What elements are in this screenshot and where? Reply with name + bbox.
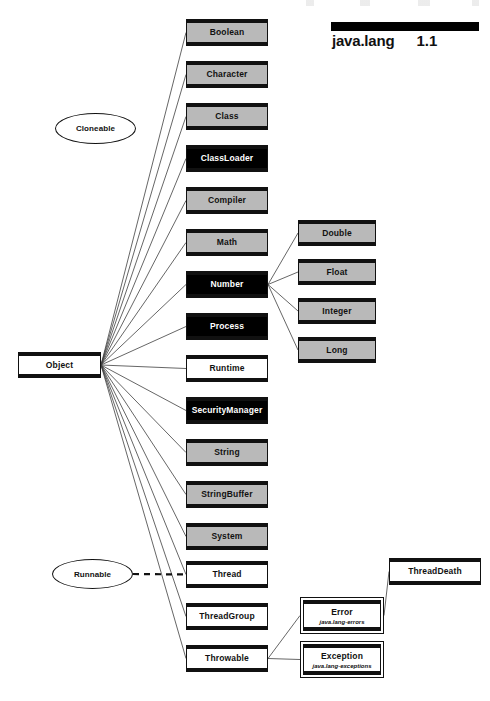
node-title: Process (210, 322, 244, 331)
edge-number-to-long (268, 285, 298, 351)
package-name: java.lang (332, 33, 394, 48)
implements-edge-runnable-to-thread (133, 574, 186, 575)
edge-object-to-boolean (101, 33, 186, 366)
node-title: System (211, 532, 242, 541)
edge-object-to-thread (101, 365, 186, 575)
scan-artifact (300, 0, 490, 6)
edge-object-to-compiler (101, 201, 186, 366)
node-title: ClassLoader (201, 154, 254, 163)
edge-object-to-system (101, 365, 186, 537)
node-title: Math (217, 238, 237, 247)
node-subtitle: java.lang-errors (319, 619, 364, 625)
throwable-inheritance-edges (268, 616, 300, 660)
package-header-bar (331, 22, 479, 31)
edge-object-to-stringbuffer (101, 365, 186, 495)
class-box-long[interactable]: Long (298, 337, 376, 363)
interface-cloneable[interactable]: Cloneable (55, 113, 136, 144)
node-title: Thread (212, 570, 241, 579)
class-box-character[interactable]: Character (186, 61, 268, 88)
edge-throwable-to-exception (268, 659, 300, 660)
node-title: Throwable (205, 654, 249, 663)
node-title: Float (326, 268, 347, 277)
edge-number-to-double (268, 233, 298, 285)
edge-object-to-math (101, 243, 186, 366)
class-box-float[interactable]: Float (298, 259, 376, 285)
class-box-math[interactable]: Math (186, 229, 268, 256)
edge-object-to-throwable (101, 365, 186, 659)
class-box-compiler[interactable]: Compiler (186, 187, 268, 214)
package-version: 1.1 (416, 33, 437, 48)
class-box-thread[interactable]: Thread (186, 561, 268, 588)
edge-object-to-class (101, 117, 186, 366)
package-header: java.lang 1.1 (331, 22, 479, 48)
node-title: Runtime (209, 364, 244, 373)
class-box-stringbuffer[interactable]: StringBuffer (186, 481, 268, 508)
edge-object-to-classloader (101, 159, 186, 366)
interface-runnable[interactable]: Runnable (52, 559, 133, 589)
class-box-exception[interactable]: Exceptionjava.lang-exceptions (300, 641, 384, 678)
class-box-throwable[interactable]: Throwable (186, 645, 268, 672)
class-box-runtime[interactable]: Runtime (186, 355, 268, 382)
class-box-double[interactable]: Double (298, 220, 376, 246)
node-title: Integer (322, 307, 351, 316)
class-box-threadgroup[interactable]: ThreadGroup (186, 603, 268, 630)
interface-label: Cloneable (76, 124, 115, 133)
edge-object-to-process (101, 327, 186, 366)
implements-edges (133, 574, 186, 575)
class-box-class[interactable]: Class (186, 103, 268, 130)
node-title: String (214, 448, 239, 457)
node-title: Object (46, 361, 73, 370)
class-box-integer[interactable]: Integer (298, 298, 376, 324)
number-inheritance-edges (268, 233, 298, 350)
node-title: Character (206, 70, 247, 79)
node-title: Class (215, 112, 238, 121)
class-box-system[interactable]: System (186, 523, 268, 550)
class-box-number[interactable]: Number (186, 271, 268, 298)
edge-throwable-to-error (268, 616, 300, 659)
node-title: ThreadDeath (408, 567, 462, 576)
interface-label: Runnable (74, 570, 111, 579)
class-box-process[interactable]: Process (186, 313, 268, 340)
class-box-threaddeath[interactable]: ThreadDeath (389, 558, 481, 585)
edge-number-to-integer (268, 285, 298, 312)
class-box-boolean[interactable]: Boolean (186, 19, 268, 46)
node-title: Error (331, 608, 353, 617)
node-title: ThreadGroup (199, 612, 255, 621)
edge-object-to-string (101, 365, 186, 453)
node-title: SecurityManager (192, 406, 263, 415)
class-box-securitymanager[interactable]: SecurityManager (186, 397, 268, 424)
node-title: Compiler (208, 196, 246, 205)
class-box-string[interactable]: String (186, 439, 268, 466)
node-title: Exception (321, 652, 363, 661)
edge-number-to-float (268, 272, 298, 285)
class-box-error[interactable]: Errorjava.lang-errors (300, 597, 384, 634)
node-title: Long (326, 346, 347, 355)
node-title: Number (210, 280, 243, 289)
edge-object-to-securitymanager (101, 365, 186, 411)
class-diagram: java.lang 1.1 ObjectBooleanCharacterClas… (0, 0, 490, 701)
node-title: Double (322, 229, 352, 238)
package-header-text: java.lang 1.1 (331, 33, 479, 48)
node-subtitle: java.lang-exceptions (312, 663, 371, 669)
edge-object-to-runtime (101, 365, 186, 369)
node-title: Boolean (210, 28, 245, 37)
class-box-object[interactable]: Object (18, 352, 101, 378)
node-title: StringBuffer (201, 490, 252, 499)
edge-object-to-number (101, 285, 186, 366)
class-box-classloader[interactable]: ClassLoader (186, 145, 268, 172)
